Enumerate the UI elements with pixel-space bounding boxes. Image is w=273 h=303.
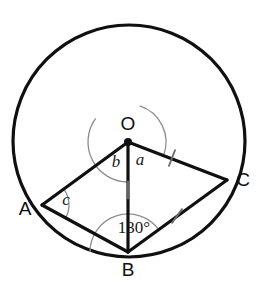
vertex-label-b: B: [122, 259, 135, 280]
geometry-diagram-canvas: OABC abc130°: [0, 0, 273, 303]
vertex-dots-group: [124, 138, 132, 146]
tick-mark-BC: [172, 209, 182, 223]
angle-label-c: c: [62, 190, 70, 209]
vertex-label-o: O: [121, 113, 136, 134]
vertex-label-c: C: [236, 169, 250, 190]
vertex-dot-o: [124, 138, 132, 146]
vertex-label-a: A: [19, 198, 32, 219]
geometry-figure: OABC abc130°: [0, 0, 273, 303]
angle-label-a: a: [136, 150, 145, 169]
angle-label-b: b: [112, 152, 121, 171]
angle-label-130: 130°: [118, 218, 150, 237]
